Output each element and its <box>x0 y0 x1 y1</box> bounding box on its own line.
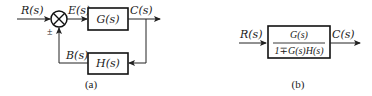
block-diagram-canvas: R(s) ± E(s) G(s) C(s) H(s) B(s) (a) R(s) <box>0 0 372 96</box>
caption-b: (b) <box>292 78 305 91</box>
summing-junction-icon <box>51 11 67 27</box>
feedback-takeoff-line <box>129 19 146 63</box>
output-label-c-b: C(s) <box>332 28 355 41</box>
caption-a: (a) <box>85 78 98 91</box>
sum-sign-label: ± <box>47 26 53 37</box>
feedback-label-b: B(s) <box>65 49 88 62</box>
input-label-r-b: R(s) <box>239 28 263 41</box>
input-label-r: R(s) <box>20 4 44 17</box>
block-numerator: G(s) <box>290 29 308 41</box>
output-label-c: C(s) <box>130 4 153 17</box>
feedback-block-label: H(s) <box>95 57 120 70</box>
diagram-a: R(s) ± E(s) G(s) C(s) H(s) B(s) (a) <box>17 4 160 91</box>
forward-block-label: G(s) <box>96 13 119 26</box>
error-label-e: E(s) <box>67 4 90 17</box>
block-denominator: 1∓G(s)H(s) <box>275 45 325 57</box>
diagram-b: R(s) G(s) 1∓G(s)H(s) C(s) (b) <box>239 26 360 91</box>
